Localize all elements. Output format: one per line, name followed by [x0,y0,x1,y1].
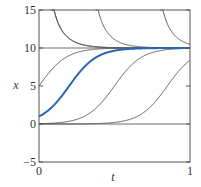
y-tick-label: 5 [30,79,36,93]
solution-curves [39,10,190,124]
chart: −505101501 t x [0,0,201,187]
x-axis-label: t [111,170,115,184]
axis-ticks: −505101501 [23,3,193,178]
y-tick-label: 15 [24,3,36,17]
solution-curve [96,10,190,48]
y-axis-label: x [12,78,19,92]
solution-curve [39,60,190,124]
highlighted-solution-curve [39,48,190,116]
solution-curve [39,48,190,86]
x-tick-label: 1 [187,164,193,178]
solution-curve [160,10,190,44]
x-tick-label: 0 [36,164,42,178]
y-tick-label: −5 [23,155,36,169]
y-tick-label: 10 [24,41,36,55]
y-tick-label: 0 [30,117,36,131]
